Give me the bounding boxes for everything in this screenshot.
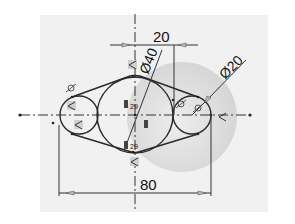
coincident-icon[interactable]: [130, 157, 139, 166]
coincident-icon[interactable]: [67, 101, 76, 110]
relation-label-upper: 29: [130, 103, 138, 110]
centerline-endpoint-left[interactable]: [18, 113, 21, 116]
tangent-icon[interactable]: [66, 84, 76, 92]
coincident-icon[interactable]: [74, 120, 83, 129]
relation-label-lower: 29: [130, 143, 138, 150]
centerline-endpoint-right[interactable]: [248, 113, 251, 116]
sketch-canvas[interactable]: 20 80 Ø40 Ø20: [0, 0, 295, 224]
coincident-icon[interactable]: [128, 60, 137, 69]
equal-icon[interactable]: 29: [124, 141, 138, 150]
sketch-drawing: 20 80 Ø40 Ø20: [0, 0, 295, 224]
horizontal-icon[interactable]: [144, 120, 148, 128]
dimension-80-text: 80: [140, 176, 157, 193]
dimension-20-text: 20: [153, 28, 170, 45]
